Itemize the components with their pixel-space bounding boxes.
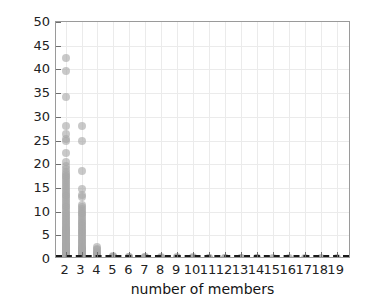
x-axis-title: number of members bbox=[55, 282, 350, 296]
x-tick-mark bbox=[225, 252, 226, 257]
data-point bbox=[62, 93, 70, 101]
x-tick-mark bbox=[97, 252, 98, 257]
y-tick-label: 45 bbox=[33, 38, 50, 51]
data-point bbox=[62, 122, 70, 130]
x-tick-label: 11 bbox=[200, 263, 217, 276]
y-tick-mark bbox=[56, 141, 61, 142]
y-tick-label: 15 bbox=[33, 180, 50, 193]
x-tick-mark bbox=[337, 252, 338, 257]
gridline-vertical bbox=[241, 22, 242, 257]
data-point bbox=[78, 167, 86, 175]
y-tick-mark bbox=[56, 117, 61, 118]
x-tick-mark bbox=[129, 252, 130, 257]
y-tick-mark bbox=[56, 212, 61, 213]
y-tick-label: 25 bbox=[33, 133, 50, 146]
y-tick-label: 5 bbox=[42, 228, 50, 241]
gridline-vertical bbox=[193, 22, 194, 257]
gridline-vertical bbox=[225, 22, 226, 257]
chart-figure: 05101520253035404550 2345678910111213141… bbox=[0, 0, 365, 305]
gridline-vertical bbox=[161, 22, 162, 257]
x-tick-label: 19 bbox=[327, 263, 344, 276]
x-tick-label: 8 bbox=[156, 263, 164, 276]
x-tick-label: 6 bbox=[124, 263, 132, 276]
data-point bbox=[62, 149, 70, 157]
y-tick-mark bbox=[56, 69, 61, 70]
y-tick-label: 0 bbox=[42, 252, 50, 265]
x-tick-label: 10 bbox=[184, 263, 201, 276]
x-tick-label: 16 bbox=[280, 263, 297, 276]
x-tick-mark bbox=[193, 252, 194, 257]
x-tick-mark bbox=[257, 252, 258, 257]
x-tick-mark bbox=[113, 252, 114, 257]
y-tick-label: 40 bbox=[33, 62, 50, 75]
y-tick-label: 20 bbox=[33, 157, 50, 170]
y-axis-tick-labels: 05101520253035404550 bbox=[0, 21, 50, 258]
x-tick-mark bbox=[209, 252, 210, 257]
x-tick-label: 17 bbox=[295, 263, 312, 276]
gridline-vertical bbox=[273, 22, 274, 257]
data-point bbox=[78, 122, 86, 130]
x-tick-mark bbox=[82, 252, 83, 257]
data-point bbox=[62, 54, 70, 62]
gridline-vertical bbox=[209, 22, 210, 257]
x-tick-mark bbox=[305, 252, 306, 257]
gridline-vertical bbox=[289, 22, 290, 257]
y-tick-mark bbox=[56, 22, 61, 23]
x-axis-tick-labels: 2345678910111213141516171819 bbox=[55, 263, 350, 281]
x-tick-label: 15 bbox=[264, 263, 281, 276]
gridline-vertical bbox=[113, 22, 114, 257]
x-tick-mark bbox=[145, 252, 146, 257]
gridline-vertical bbox=[145, 22, 146, 257]
x-tick-mark bbox=[321, 252, 322, 257]
x-tick-mark bbox=[273, 252, 274, 257]
x-tick-label: 12 bbox=[216, 263, 233, 276]
x-tick-label: 3 bbox=[76, 263, 84, 276]
gridline-vertical bbox=[177, 22, 178, 257]
data-point bbox=[62, 67, 70, 75]
y-tick-label: 50 bbox=[33, 15, 50, 28]
gridline-vertical bbox=[337, 22, 338, 257]
x-tick-label: 2 bbox=[60, 263, 68, 276]
x-tick-mark bbox=[161, 252, 162, 257]
y-tick-label: 35 bbox=[33, 86, 50, 99]
y-tick-mark bbox=[56, 188, 61, 189]
x-tick-label: 14 bbox=[248, 263, 265, 276]
x-tick-mark bbox=[289, 252, 290, 257]
x-tick-mark bbox=[241, 252, 242, 257]
y-tick-mark bbox=[56, 164, 61, 165]
x-tick-label: 7 bbox=[140, 263, 148, 276]
x-tick-mark bbox=[66, 252, 67, 257]
data-point bbox=[62, 137, 70, 145]
x-tick-mark bbox=[177, 252, 178, 257]
x-tick-label: 5 bbox=[108, 263, 116, 276]
y-tick-mark bbox=[56, 235, 61, 236]
data-point bbox=[78, 137, 86, 145]
gridline-vertical bbox=[97, 22, 98, 257]
x-tick-label: 9 bbox=[172, 263, 180, 276]
y-tick-label: 10 bbox=[33, 204, 50, 217]
y-tick-mark bbox=[56, 93, 61, 94]
y-tick-label: 30 bbox=[33, 109, 50, 122]
plot-area bbox=[55, 21, 350, 258]
gridline-vertical bbox=[321, 22, 322, 257]
x-tick-label: 13 bbox=[232, 263, 249, 276]
y-tick-mark bbox=[56, 46, 61, 47]
gridline-vertical bbox=[305, 22, 306, 257]
x-tick-label: 18 bbox=[311, 263, 328, 276]
x-tick-label: 4 bbox=[92, 263, 100, 276]
gridline-vertical bbox=[257, 22, 258, 257]
gridline-vertical bbox=[129, 22, 130, 257]
